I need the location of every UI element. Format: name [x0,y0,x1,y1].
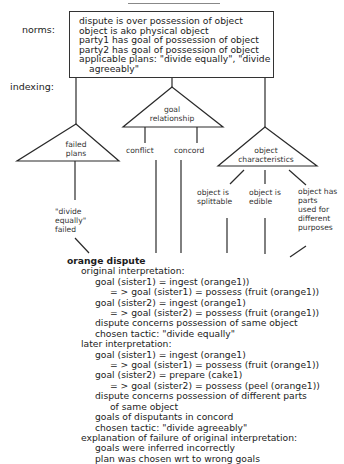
label-line: purposes [298,223,337,232]
label-line: object [226,146,306,155]
label-line: parts [298,196,337,205]
label-line: different [298,214,337,223]
label-line: used for [298,205,337,214]
edible-node: object is edible [249,188,281,206]
label-line: characteristics [226,155,306,164]
label-line: splittable [197,197,232,206]
label-line: plans [46,149,106,158]
case-line: dispute concerns possession of different… [67,391,320,401]
goal-relationship-label: goal relationship [137,105,207,123]
label-line: "divide [55,207,86,216]
label-line: relationship [137,114,207,123]
label-line: object is [249,188,281,197]
label-line: object has [298,187,337,196]
label-line: failed [46,140,106,149]
splittable-node: object is splittable [197,188,232,206]
divide-equally-failed-node: "divide equally" failed [55,207,86,234]
case-lines: original interpretation:goal (sister1) =… [67,266,320,464]
label-line: goal [137,105,207,114]
label-line: edible [249,197,281,206]
concord-node: concord [174,146,204,155]
object-characteristics-label: object characteristics [226,146,306,164]
object-has-parts-node: object has parts used for different purp… [298,187,337,232]
label-line: equally" [55,216,86,225]
label-line: failed [55,225,86,234]
orange-dispute-case: orange dispute original interpretation:g… [67,256,320,464]
label-line: object is [197,188,232,197]
case-line: goals of disputants in concord [67,412,320,422]
conflict-node: conflict [126,146,154,155]
case-line: plan was chosen wrt to wrong goals [67,454,320,464]
failed-plans-label: failed plans [46,140,106,158]
